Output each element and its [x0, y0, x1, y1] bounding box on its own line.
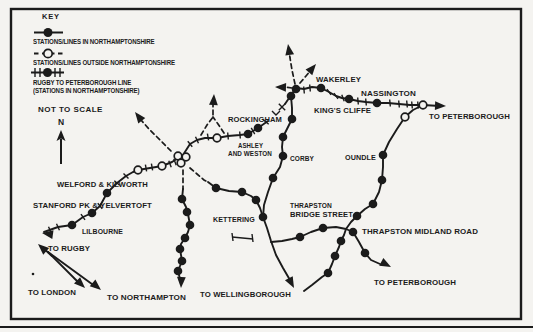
map-border [11, 9, 521, 319]
railway-line-dashed [190, 168, 208, 182]
label-wakerley: WAKERLEY [316, 76, 361, 83]
railway-line-dashed [213, 117, 224, 133]
station-dot-filled [317, 84, 326, 93]
station-dot-filled [254, 124, 263, 133]
label-thrapston-bs-line2: BRIDGE STREET [290, 211, 354, 218]
tick-mark [390, 100, 391, 107]
station-dot-filled [181, 234, 190, 243]
tick-mark [228, 133, 229, 140]
direction-arrow [90, 280, 104, 294]
station-dot-open [134, 166, 142, 174]
direction-arrow [209, 94, 218, 105]
railway-line-dashed [141, 120, 171, 151]
v-mark [272, 111, 280, 115]
station-dot-filled [244, 130, 253, 139]
label-rockingham: ROCKINGHAM [228, 116, 282, 123]
station-dot-filled [178, 257, 187, 266]
station-dot-filled [238, 188, 247, 197]
tick-mark [304, 87, 305, 94]
railway-line [263, 217, 290, 280]
label-ashley-line1: ASHLEY [238, 142, 263, 149]
bracket-mark [252, 234, 253, 242]
direction-arrow [275, 83, 286, 92]
station-dot-filled [337, 237, 346, 246]
tick-mark [358, 98, 359, 105]
label-lilbourne: LILBOURNE [82, 228, 123, 235]
label-nassington: NASSINGTON [361, 90, 416, 97]
station-dot-filled [288, 115, 297, 124]
x-mark [279, 104, 285, 110]
tick-mark [310, 85, 311, 92]
station-dot-filled [373, 99, 382, 108]
label-oundle: OUNDLE [345, 154, 376, 161]
railway-line-dashed [289, 50, 295, 84]
bracket-mark [232, 237, 253, 239]
direction-arrow [285, 276, 298, 290]
station-dot-open [177, 159, 185, 167]
station-dot-open [401, 113, 409, 121]
station-dot-filled [379, 151, 388, 160]
station-dot-open [213, 134, 221, 142]
tick-mark [151, 164, 152, 171]
stray-dot [32, 273, 35, 276]
station-dot-open [419, 101, 427, 109]
station-dot-filled [287, 92, 296, 101]
station-dot-filled [331, 252, 340, 261]
station-dot-filled [178, 195, 187, 204]
railway-line [304, 106, 421, 291]
station-dot-filled [292, 85, 301, 94]
tick-mark [207, 134, 208, 141]
station-dot-filled [176, 245, 185, 254]
tick-mark [145, 165, 146, 172]
tick-mark [412, 102, 413, 109]
direction-arrow [435, 101, 446, 110]
label-to-rugby: TO RUGBY [48, 245, 90, 252]
station-dot-filled [349, 228, 358, 237]
tick-mark [366, 99, 367, 106]
label-welford: WELFORD & KILWORTH [57, 181, 148, 188]
label-kettering: KETTERING [213, 216, 255, 223]
station-dot-filled [279, 152, 288, 161]
scanned-railway-map-page: WAKERLEYKING'S CLIFFENASSINGTONTO PETERB… [0, 0, 533, 332]
label-thrapston-bs-line1: THRAPSTON [290, 202, 332, 209]
tick-mark [418, 102, 419, 109]
tick-mark [407, 101, 408, 108]
label-to-peterborough-bottom: TO PETERBOROUGH [374, 279, 456, 286]
direction-arrow [177, 277, 186, 288]
station-dot-filled [279, 133, 288, 142]
station-dot-filled [174, 267, 183, 276]
station-dot-filled [269, 174, 278, 183]
station-dot-filled [212, 184, 221, 193]
label-to-peterborough-top: TO PETERBOROUGH [429, 113, 510, 120]
direction-arrow [379, 258, 393, 271]
station-dot-filled [319, 224, 328, 233]
station-dot-filled [378, 176, 387, 185]
label-corby: CORBY [290, 155, 314, 162]
station-dot-filled [296, 233, 305, 242]
label-kings-cliffe: KING'S CLIFFE [314, 107, 371, 114]
label-thrapston-midland: THRAPSTON MIDLAND ROAD [362, 228, 478, 235]
label-to-wellingborough: TO WELLINGBOROUGH [200, 291, 291, 298]
tick-mark [240, 132, 241, 139]
station-dot-filled [186, 221, 195, 230]
direction-arrow [284, 43, 294, 55]
railway-line [48, 252, 80, 284]
railway-map: WAKERLEYKING'S CLIFFENASSINGTONTO PETERB… [0, 0, 533, 332]
tick-mark [399, 101, 400, 108]
railway-line-dashed [201, 101, 213, 135]
label-to-northampton: TO NORTHAMPTON [107, 294, 186, 301]
station-dot-filled [103, 189, 112, 198]
label-ashley-line2: AND WESTON [228, 150, 272, 157]
station-dot-filled [324, 269, 333, 278]
station-dot-filled [369, 200, 378, 209]
station-dot-filled [345, 95, 354, 104]
railway-line [44, 158, 178, 232]
station-dot-filled [183, 208, 192, 217]
station-dot-filled [252, 196, 261, 205]
station-dot-filled [68, 221, 77, 230]
station-dot-open [158, 162, 166, 170]
railway-line [48, 252, 96, 287]
station-dot-filled [259, 213, 268, 222]
label-stanford-pk: STANFORD PK & YELVERTOFT [33, 202, 153, 209]
station-dot-filled [88, 209, 97, 218]
